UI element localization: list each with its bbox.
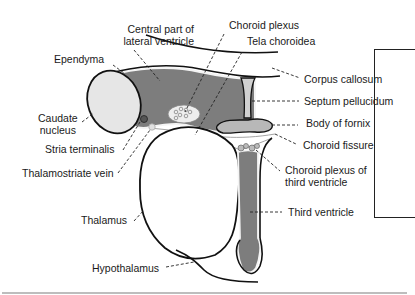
adjacent-panel-border	[374, 49, 415, 218]
label-central-part-lateral-ventricle: Central part of lateral ventricle	[64, 23, 194, 47]
label-thalamus: Thalamus	[81, 214, 127, 226]
label-stria-terminalis: Stria terminalis	[45, 143, 114, 155]
label-caudate-nucleus: Caudate nucleus	[38, 112, 78, 136]
label-corpus-callosum: Corpus callosum	[304, 73, 382, 85]
label-line: Central part of	[64, 23, 194, 35]
stria-terminalis	[141, 116, 148, 123]
label-choroid-plexus-third-ventricle: Choroid plexus of third ventricle	[285, 164, 367, 188]
body-of-fornix	[217, 119, 273, 133]
label-choroid-plexus: Choroid plexus	[229, 19, 299, 31]
label-third-ventricle: Third ventricle	[288, 206, 354, 218]
label-thalamostriate-vein: Thalamostriate vein	[22, 167, 114, 179]
choroid-plexus	[168, 105, 200, 123]
label-choroid-fissure: Choroid fissure	[303, 139, 374, 151]
third-ventricle	[238, 151, 260, 273]
label-hypothalamus: Hypothalamus	[92, 262, 159, 274]
bottom-rule	[2, 292, 407, 294]
label-line: Caudate	[38, 112, 78, 124]
label-line: third ventricle	[285, 176, 367, 188]
label-body-of-fornix: Body of fornix	[306, 117, 370, 129]
label-ependyma: Ependyma	[54, 53, 104, 65]
label-line: nucleus	[38, 124, 78, 136]
third-ventricle-right-wall	[260, 138, 272, 238]
label-line: lateral ventricle	[64, 35, 194, 47]
thalamostriate-vein	[149, 124, 155, 130]
label-tela-choroidea: Tela choroidea	[247, 35, 315, 47]
thalamus	[140, 127, 239, 258]
label-line: Choroid plexus of	[285, 164, 367, 176]
